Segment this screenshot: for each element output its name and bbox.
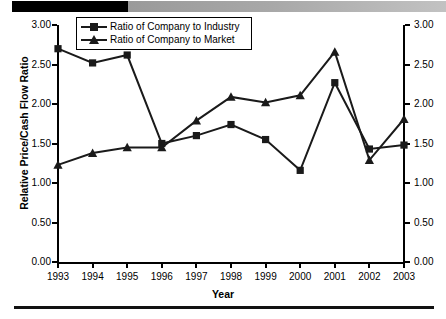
- data-point-square: [297, 167, 304, 174]
- data-point-square: [193, 132, 200, 139]
- y-axis-title: Relative Price/Cash Flow Ratio: [18, 56, 30, 209]
- x-tick: [57, 263, 59, 268]
- y-tick-right: [405, 103, 410, 105]
- series-industry: [54, 45, 407, 174]
- x-axis-title: Year: [0, 288, 446, 300]
- legend-square-marker-icon: [81, 21, 107, 32]
- x-tick: [334, 263, 336, 268]
- x-tick: [368, 263, 370, 268]
- legend-triangle-marker-icon: [81, 34, 107, 45]
- y-tick-label-left: 0.00: [32, 257, 51, 267]
- data-point-square: [54, 45, 61, 52]
- data-point-triangle: [399, 114, 408, 123]
- y-tick-left: [52, 103, 57, 105]
- y-tick-label-right: 2.00: [414, 99, 433, 109]
- footer-rule: [14, 306, 434, 309]
- header-decoration-bar: [0, 0, 446, 14]
- y-tick-right: [405, 64, 410, 66]
- x-tick: [299, 263, 301, 268]
- y-tick-label-right: 0.50: [414, 218, 433, 228]
- y-tick-left: [52, 182, 57, 184]
- x-tick: [230, 263, 232, 268]
- x-tick: [265, 263, 267, 268]
- series-market: [53, 47, 408, 168]
- x-tick: [403, 263, 405, 268]
- y-tick-left: [52, 24, 57, 26]
- legend-label-market: Ratio of Company to Market: [110, 34, 235, 45]
- y-tick-left: [52, 222, 57, 224]
- data-point-square: [89, 59, 96, 66]
- x-tick: [92, 263, 94, 268]
- y-tick-right: [405, 182, 410, 184]
- y-tick-label-left: 1.50: [32, 139, 51, 149]
- series-plot: [58, 25, 404, 263]
- y-tick-label-right: 2.50: [414, 60, 433, 70]
- header-bar-gray: [128, 1, 446, 12]
- legend-item-market: Ratio of Company to Market: [81, 33, 247, 46]
- data-point-square: [331, 79, 338, 86]
- plot-area: 3.002.502.001.501.000.500.00 3.002.502.0…: [58, 25, 404, 262]
- legend-label-industry: Ratio of Company to Industry: [110, 21, 240, 32]
- data-point-square: [227, 121, 234, 128]
- x-tick-label: 2003: [384, 271, 424, 282]
- series-line: [58, 49, 404, 171]
- y-tick-right: [405, 261, 410, 263]
- y-tick-label-right: 3.00: [414, 20, 433, 30]
- y-tick-label-left: 1.00: [32, 178, 51, 188]
- y-tick-left: [52, 64, 57, 66]
- data-point-square: [124, 51, 131, 58]
- data-point-square: [400, 141, 407, 148]
- data-point-triangle: [330, 47, 339, 56]
- y-tick-label-left: 2.50: [32, 60, 51, 70]
- y-tick-right: [405, 222, 410, 224]
- y-tick-left: [52, 143, 57, 145]
- y-tick-label-right: 1.50: [414, 139, 433, 149]
- header-bar-black: [12, 1, 128, 12]
- chart-figure: Relative Price/Cash Flow Ratio 3.002.502…: [0, 14, 446, 306]
- x-tick: [126, 263, 128, 268]
- x-tick: [161, 263, 163, 268]
- y-tick-label-right: 0.00: [414, 257, 433, 267]
- y-tick-label-left: 2.00: [32, 99, 51, 109]
- chart-legend: Ratio of Company to Industry Ratio of Co…: [76, 17, 252, 50]
- y-tick-label-left: 0.50: [32, 218, 51, 228]
- y-tick-label-right: 1.00: [414, 178, 433, 188]
- x-tick: [195, 263, 197, 268]
- y-tick-right: [405, 24, 410, 26]
- y-tick-label-left: 3.00: [32, 20, 51, 30]
- legend-item-industry: Ratio of Company to Industry: [81, 20, 247, 33]
- series-line: [58, 52, 404, 165]
- data-point-square: [262, 136, 269, 143]
